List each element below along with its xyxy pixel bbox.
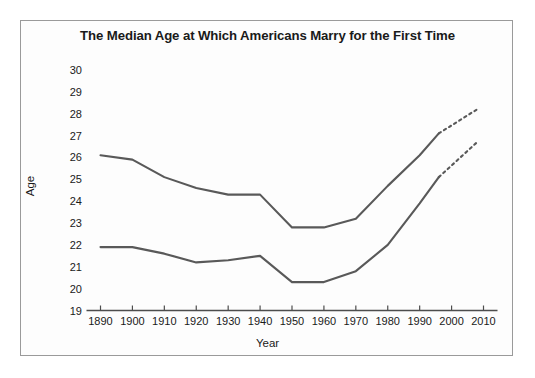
- y-tick-label-group: 192021222324252627282930: [70, 64, 82, 317]
- y-tick-label: 29: [70, 86, 82, 98]
- series-line-men-projected: [439, 109, 477, 133]
- x-tick-label: 2000: [439, 315, 463, 327]
- x-tick-label: 1950: [280, 315, 304, 327]
- series-line-women: [101, 177, 439, 282]
- chart-page: The Median Age at Which Americans Marry …: [0, 0, 535, 378]
- series-line-men: [101, 133, 439, 227]
- x-tick-label: 1980: [376, 315, 400, 327]
- x-tick-label: 1990: [407, 315, 431, 327]
- y-tick-label: 23: [70, 217, 82, 229]
- x-tick-label: 1960: [312, 315, 336, 327]
- y-tick-label: 22: [70, 239, 82, 251]
- x-tick-label: 1900: [120, 315, 144, 327]
- x-tick-label: 1910: [152, 315, 176, 327]
- series-line-women-projected: [439, 142, 477, 177]
- y-tick-label: 26: [70, 151, 82, 163]
- y-tick-label: 24: [70, 195, 82, 207]
- y-tick-label: 25: [70, 173, 82, 185]
- y-tick-label: 28: [70, 108, 82, 120]
- x-tick-label: 1940: [248, 315, 272, 327]
- y-tick-label: 19: [70, 305, 82, 317]
- data-series-group: [101, 109, 478, 282]
- y-tick-label: 27: [70, 130, 82, 142]
- y-tick-label: 20: [70, 283, 82, 295]
- x-tick-label: 1930: [216, 315, 240, 327]
- x-tick-label: 1890: [88, 315, 112, 327]
- x-tick-mark-group: [101, 306, 484, 311]
- y-tick-label: 30: [70, 64, 82, 76]
- x-tick-label: 1920: [184, 315, 208, 327]
- plot-area: 192021222324252627282930 189019001910192…: [0, 0, 535, 378]
- x-tick-label-group: 1890190019101920193019401950196019701980…: [88, 315, 495, 327]
- y-tick-label: 21: [70, 261, 82, 273]
- x-tick-label: 1970: [344, 315, 368, 327]
- x-tick-label: 2010: [471, 315, 495, 327]
